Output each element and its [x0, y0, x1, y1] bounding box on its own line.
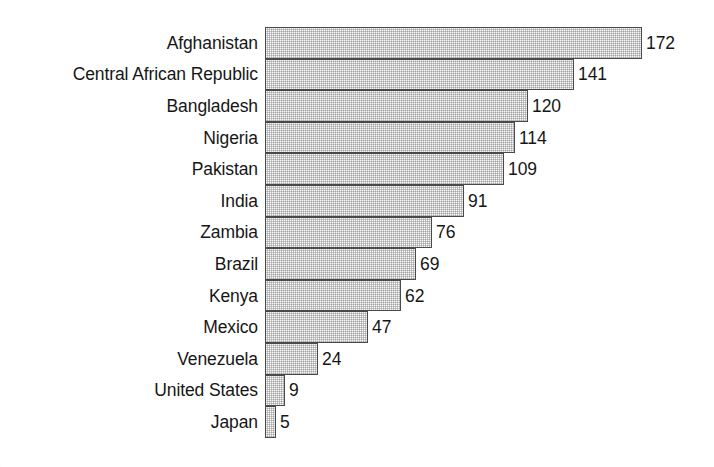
bar-container: 5	[265, 406, 276, 438]
bar-container: 24	[265, 343, 318, 375]
bar-container: 172	[265, 27, 642, 59]
bar-container: 69	[265, 248, 416, 280]
bar-container: 62	[265, 280, 401, 312]
bar-chart: Afghanistan 172 Central African Republic…	[0, 0, 714, 467]
bar	[265, 375, 285, 407]
category-label: United States	[154, 380, 258, 401]
bar-value-label: 91	[468, 190, 487, 211]
bar-value-label: 109	[508, 159, 537, 180]
category-label: India	[221, 190, 258, 211]
bar-value-label: 69	[420, 253, 439, 274]
chart-row: Zambia 76	[0, 217, 714, 249]
bar-container: 120	[265, 90, 528, 122]
category-label: Kenya	[209, 285, 258, 306]
bar-value-label: 47	[372, 317, 391, 338]
chart-row: Japan 5	[0, 406, 714, 438]
chart-row: Bangladesh 120	[0, 90, 714, 122]
category-label: Central African Republic	[73, 64, 258, 85]
chart-row: India 91	[0, 185, 714, 217]
bar	[265, 27, 642, 59]
bar-value-label: 114	[519, 127, 547, 148]
bar-value-label: 9	[289, 380, 299, 401]
bar	[265, 280, 401, 312]
bar-value-label: 24	[322, 348, 341, 369]
bar-container: 141	[265, 59, 574, 91]
chart-row: United States 9	[0, 375, 714, 407]
bar	[265, 248, 416, 280]
chart-row: Pakistan 109	[0, 153, 714, 185]
bar-value-label: 120	[532, 95, 561, 116]
bar	[265, 122, 515, 154]
chart-row: Brazil 69	[0, 248, 714, 280]
bar-value-label: 62	[405, 285, 424, 306]
category-label: Bangladesh	[167, 95, 258, 116]
bar-container: 9	[265, 375, 285, 407]
bar-container: 47	[265, 311, 368, 343]
chart-row: Mexico 47	[0, 311, 714, 343]
category-label: Pakistan	[192, 159, 258, 180]
bar	[265, 59, 574, 91]
chart-row: Nigeria 114	[0, 122, 714, 154]
bar	[265, 343, 318, 375]
bar-container: 109	[265, 153, 504, 185]
bar	[265, 311, 368, 343]
category-label: Zambia	[200, 222, 258, 243]
chart-row: Kenya 62	[0, 280, 714, 312]
bar	[265, 217, 432, 249]
bar-container: 76	[265, 217, 432, 249]
category-label: Brazil	[215, 253, 258, 274]
chart-row: Afghanistan 172	[0, 27, 714, 59]
category-label: Japan	[211, 411, 258, 432]
chart-row: Venezuela 24	[0, 343, 714, 375]
bar-value-label: 76	[436, 222, 455, 243]
category-label: Mexico	[203, 317, 258, 338]
chart-row: Central African Republic 141	[0, 59, 714, 91]
bar	[265, 90, 528, 122]
bar-container: 114	[265, 122, 515, 154]
bar-container: 91	[265, 185, 464, 217]
bar	[265, 406, 276, 438]
bar	[265, 185, 464, 217]
bar-value-label: 141	[578, 64, 607, 85]
category-label: Venezuela	[177, 348, 258, 369]
bar	[265, 153, 504, 185]
bar-value-label: 5	[280, 411, 290, 432]
chart-plot-area: Afghanistan 172 Central African Republic…	[0, 27, 714, 438]
category-label: Nigeria	[203, 127, 258, 148]
bar-value-label: 172	[646, 32, 675, 53]
category-label: Afghanistan	[167, 32, 258, 53]
